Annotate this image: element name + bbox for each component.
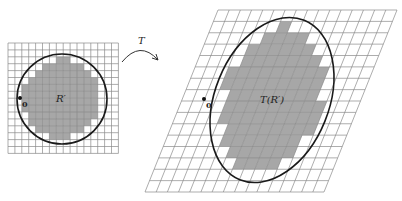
left-panel: 0 R′ (8, 43, 118, 153)
right-panel: 0 T(R′) (145, 0, 397, 201)
change-of-variables-figure: 0 R′ T 0 T(R′) (0, 0, 402, 201)
region-label-r-prime: R′ (55, 93, 67, 104)
curved-arrow-icon (122, 50, 158, 62)
region-label-t-r-prime: T(R′) (260, 94, 284, 105)
transform-label: T (138, 35, 146, 46)
transform-arrow: T (122, 35, 158, 62)
origin-label-transformed: 0 (206, 100, 212, 110)
origin-label: 0 (22, 99, 28, 109)
